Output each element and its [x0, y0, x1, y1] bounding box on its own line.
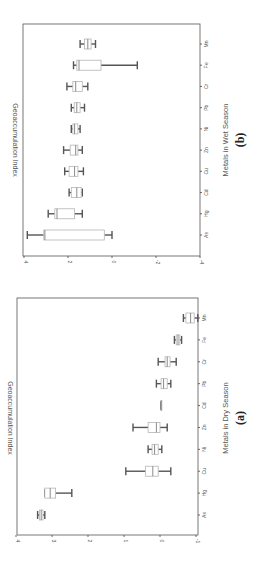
plot-frame: [17, 298, 198, 535]
box: [70, 145, 78, 155]
tick-label: 1: [123, 540, 129, 543]
y-axis-ticks: 43210-1: [15, 535, 201, 543]
y-axis-ticks: 420-2-4: [23, 256, 205, 264]
tick-label: -4: [199, 260, 205, 265]
tick-label: 4: [23, 261, 29, 264]
category-label: Cu: [203, 168, 209, 175]
box: [186, 313, 194, 323]
category-label: Mn: [201, 314, 207, 321]
figure: 420-2-4 AsHgCdCuZnNiPbCrFeMn Geoaccumula…: [0, 0, 263, 581]
category-label: Cd: [201, 402, 207, 409]
panel-letter: (b): [233, 133, 247, 148]
box-pb: [71, 103, 84, 113]
y-axis-label: Geoaccumulation Index: [7, 381, 14, 455]
box-zn: [133, 422, 167, 432]
box-as: [27, 230, 112, 240]
box: [152, 444, 158, 454]
box: [73, 81, 82, 91]
category-label: Zn: [203, 147, 209, 153]
panel-dry-season: 43210-1 AsHgCuNiZnCdPbCrFeMn Geoaccumula…: [7, 298, 247, 543]
tick-label: 4: [15, 540, 21, 543]
category-label: Ni: [201, 447, 207, 452]
plot-frame: [23, 24, 200, 256]
category-label: As: [201, 512, 207, 518]
x-axis-label: Metals in Wet Season: [221, 104, 230, 177]
category-label: Cd: [203, 189, 209, 196]
box-cd: [69, 188, 82, 198]
tick-label: -1: [195, 539, 201, 544]
panel-letter: (a): [233, 411, 247, 425]
box-fe: [174, 335, 181, 345]
box-cr: [158, 357, 176, 367]
category-label: Cr: [203, 83, 209, 89]
tick-label: 2: [67, 261, 73, 264]
x-axis-label: Metals in Dry Season: [221, 382, 230, 453]
panel-wet-season: 420-2-4 AsHgCdCuZnNiPbCrFeMn Geoaccumula…: [12, 24, 247, 264]
box-hg: [45, 488, 72, 498]
category-label: Mn: [203, 40, 209, 47]
box-series: [27, 39, 137, 240]
tick-label: 0: [159, 540, 165, 543]
category-label: Pb: [201, 380, 207, 386]
category-label: As: [203, 232, 209, 238]
box-series: [38, 313, 198, 520]
box-ni: [71, 124, 80, 134]
category-label: Ni: [203, 127, 209, 132]
category-label: Hg: [203, 210, 209, 217]
box: [77, 60, 101, 70]
category-label: Fe: [201, 337, 207, 343]
category-label: Fe: [203, 62, 209, 68]
box-zn: [64, 145, 83, 155]
box-mn: [183, 313, 197, 323]
box-hg: [48, 209, 82, 219]
tick-label: -2: [155, 260, 161, 265]
category-label: Cu: [201, 468, 207, 475]
category-label: Pb: [203, 104, 209, 110]
box: [146, 466, 159, 476]
box: [161, 379, 167, 389]
category-label: Zn: [201, 424, 207, 430]
y-axis-label: Geoaccumulation Index: [12, 103, 19, 177]
box-ni: [148, 444, 162, 454]
x-axis-categories: AsHgCdCuZnNiPbCrFeMn: [200, 40, 209, 238]
box-mn: [80, 39, 95, 49]
box: [148, 422, 160, 432]
boxplot-figure: 420-2-4 AsHgCdCuZnNiPbCrFeMn Geoaccumula…: [0, 0, 263, 581]
box: [73, 124, 78, 134]
category-label: Cr: [201, 359, 207, 365]
box: [69, 166, 78, 176]
tick-label: 2: [87, 540, 93, 543]
tick-label: 0: [111, 261, 117, 264]
box-as: [38, 510, 45, 520]
box-fe: [74, 60, 138, 70]
box: [44, 230, 105, 240]
box-cr: [67, 81, 88, 91]
box-cd: [161, 401, 162, 411]
tick-label: 3: [51, 540, 57, 543]
box: [71, 188, 81, 198]
box-pb: [156, 379, 170, 389]
box-cu: [65, 166, 84, 176]
x-axis-categories: AsHgCuNiZnCdPbCrFeMn: [198, 314, 207, 518]
box: [55, 209, 75, 219]
box-cu: [126, 466, 171, 476]
category-label: Hg: [201, 490, 207, 497]
